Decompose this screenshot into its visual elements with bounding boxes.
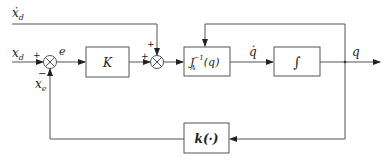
summing-junction-2 [151,56,164,69]
summing-junction-1 [44,56,57,69]
label-xe: xe [35,77,47,93]
label-xdot-d: ẋd [12,6,24,22]
label-qdot: q̇ [249,45,257,59]
forward-kinematics-label: k(·) [195,132,219,146]
label-xd: xd [12,46,24,62]
gain-label: K [102,56,113,70]
sum1-plus-sign: + [33,50,41,60]
label-q: q [352,45,360,59]
block-diagram: ẋd xd + − e xe K + + JA−1(q) q̇ ∫ q k(·) [0,0,389,161]
integrator-label: ∫ [293,54,300,70]
xe-feedback-line [50,69,184,139]
sum2-plus-left-sign: + [141,51,149,61]
sum2-plus-top-sign: + [147,39,155,49]
label-error: e [59,45,66,58]
